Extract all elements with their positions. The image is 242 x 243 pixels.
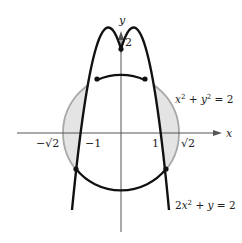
- y-axis-label: y: [118, 14, 126, 27]
- tick-label-neg-1: −1: [85, 137, 101, 150]
- circle-equation-label: x2 + y2 = 2: [175, 93, 233, 105]
- x-axis-label: x: [226, 127, 233, 140]
- y-axis-arrow-icon: [118, 31, 124, 40]
- intersection-point: [142, 76, 147, 81]
- tick-label-y-2: 2: [125, 36, 132, 49]
- parabola-equation-label: 2x2 + y = 2: [175, 199, 236, 211]
- x-axis: [17, 130, 222, 136]
- intersection-point: [118, 46, 123, 51]
- tick-label-1: 1: [152, 137, 159, 150]
- intersection-point: [73, 166, 78, 171]
- tick-label-sqrt2: √2: [181, 137, 195, 150]
- x-axis-arrow-icon: [213, 130, 222, 136]
- intersection-point: [94, 76, 99, 81]
- y-axis: [118, 31, 124, 232]
- graph: x y −√2 −1 1 √2 2 x2 + y2 = 2 2x2 + y = …: [0, 0, 242, 243]
- tick-label-neg-sqrt2: −√2: [36, 137, 59, 150]
- intersection-point: [163, 166, 168, 171]
